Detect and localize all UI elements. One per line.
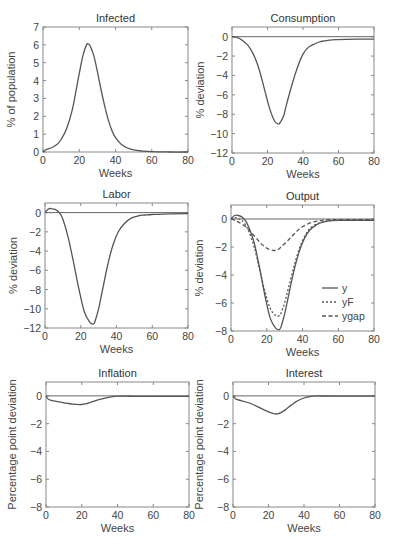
x-axis-label: Weeks xyxy=(286,168,320,180)
y-tick-label: 0 xyxy=(222,31,228,43)
x-tick-label: 0 xyxy=(230,509,236,521)
y-tick-label: −4 xyxy=(29,245,41,257)
y-tick-label: 0 xyxy=(36,390,42,402)
x-tick-label: 80 xyxy=(182,154,194,166)
x-tick-label: 80 xyxy=(368,333,380,345)
y-axis-label: % deviation xyxy=(194,62,206,119)
y-tick-label: −2 xyxy=(217,418,229,430)
chart-output: Output0204060800−2−4−6−8Weeks% deviation… xyxy=(193,190,380,358)
y-tick-label: 0 xyxy=(35,207,41,219)
x-tick-label: 40 xyxy=(298,509,310,521)
x-axis-label: Weeks xyxy=(99,167,133,179)
y-tick-label: 0 xyxy=(33,146,39,158)
y-tick-label: −12 xyxy=(210,147,228,159)
chart-title: Labor xyxy=(102,188,130,200)
series-line-labor xyxy=(45,208,188,324)
plot-area xyxy=(233,382,375,507)
y-tick-label: 5 xyxy=(33,57,39,69)
y-tick-label: 7 xyxy=(33,21,39,33)
x-axis-label: Weeks xyxy=(287,522,321,534)
x-tick-label: 60 xyxy=(333,155,345,167)
y-tick-label: −4 xyxy=(215,269,227,281)
chart-title: Infected xyxy=(96,12,135,24)
y-tick-label: −8 xyxy=(30,501,42,513)
y-tick-label: −6 xyxy=(30,473,42,485)
x-tick-label: 80 xyxy=(368,155,380,167)
series-line-consumption xyxy=(232,37,374,124)
plot-area xyxy=(46,382,189,507)
chart-interest: Interest0204060800−2−4−6−8WeeksPercentag… xyxy=(193,367,381,534)
y-tick-label: 0 xyxy=(223,390,229,402)
legend-label: yF xyxy=(342,296,354,308)
y-tick-label: −6 xyxy=(215,297,227,309)
x-tick-label: 40 xyxy=(297,333,309,345)
x-tick-label: 60 xyxy=(147,509,159,521)
x-tick-label: 40 xyxy=(110,154,122,166)
y-tick-label: −10 xyxy=(210,128,228,140)
y-tick-label: 6 xyxy=(33,39,39,51)
chart-labor: Labor0204060800−2−4−6−8−10−12Weeks% devi… xyxy=(7,188,194,355)
y-axis-label: Percentage point deviation xyxy=(6,379,18,509)
y-tick-label: −12 xyxy=(23,322,41,334)
x-tick-label: 0 xyxy=(40,154,46,166)
x-tick-label: 80 xyxy=(369,509,381,521)
x-axis-label: Weeks xyxy=(286,346,320,358)
caption-strip xyxy=(60,537,360,543)
x-tick-label: 0 xyxy=(229,155,235,167)
y-tick-label: −8 xyxy=(217,501,229,513)
chart-infected: Infected02040608001234567Weeks% of popul… xyxy=(5,12,194,179)
legend: yyFygap xyxy=(322,282,365,322)
y-tick-label: −2 xyxy=(216,50,228,62)
y-tick-label: 4 xyxy=(33,75,39,87)
x-tick-label: 20 xyxy=(263,509,275,521)
x-tick-label: 80 xyxy=(183,509,195,521)
y-tick-label: −8 xyxy=(215,325,227,337)
x-axis-label: Weeks xyxy=(100,343,134,355)
chart-title: Output xyxy=(286,190,319,202)
y-tick-label: −2 xyxy=(30,418,42,430)
y-tick-label: −8 xyxy=(216,108,228,120)
x-tick-label: 0 xyxy=(42,330,48,342)
x-tick-label: 20 xyxy=(73,154,85,166)
y-tick-label: 3 xyxy=(33,92,39,104)
chart-inflation: Inflation0204060800−2−4−6−8WeeksPercenta… xyxy=(6,367,195,534)
y-tick-label: 0 xyxy=(221,213,227,225)
y-tick-label: −6 xyxy=(29,264,41,276)
chart-title: Consumption xyxy=(271,12,336,24)
x-tick-label: 40 xyxy=(297,155,309,167)
x-tick-label: 0 xyxy=(43,509,49,521)
chart-title: Inflation xyxy=(98,367,137,379)
y-tick-label: −6 xyxy=(216,89,228,101)
y-axis-label: % deviation xyxy=(7,237,19,294)
x-tick-label: 60 xyxy=(334,509,346,521)
series-line-infected xyxy=(43,44,188,152)
plot-area xyxy=(45,203,188,328)
y-tick-label: −4 xyxy=(217,445,229,457)
y-tick-label: −2 xyxy=(29,226,41,238)
x-tick-label: 20 xyxy=(262,155,274,167)
chart-consumption: Consumption0204060800−2−4−6−8−10−12Weeks… xyxy=(194,12,380,180)
x-tick-label: 60 xyxy=(146,330,158,342)
y-tick-label: −10 xyxy=(23,303,41,315)
x-axis-label: Weeks xyxy=(101,522,135,534)
x-tick-label: 20 xyxy=(261,333,273,345)
y-tick-label: −6 xyxy=(217,473,229,485)
series-line-ygap xyxy=(231,219,374,251)
x-tick-label: 60 xyxy=(146,154,158,166)
series-line-inflation xyxy=(46,396,189,405)
y-axis-label: Percentage point deviation xyxy=(193,379,205,509)
x-tick-label: 20 xyxy=(75,330,87,342)
y-tick-label: −8 xyxy=(29,284,41,296)
y-tick-label: −4 xyxy=(30,445,42,457)
x-tick-label: 40 xyxy=(112,509,124,521)
x-tick-label: 0 xyxy=(228,333,234,345)
series-line-interest xyxy=(233,396,375,414)
y-tick-label: −2 xyxy=(215,241,227,253)
y-axis-label: % deviation xyxy=(193,240,205,297)
plot-area xyxy=(232,27,374,153)
chart-title: Interest xyxy=(286,367,323,379)
figure-canvas: Infected02040608001234567Weeks% of popul… xyxy=(0,0,396,545)
y-tick-label: 2 xyxy=(33,110,39,122)
legend-label: y xyxy=(342,282,348,294)
y-tick-label: −4 xyxy=(216,69,228,81)
